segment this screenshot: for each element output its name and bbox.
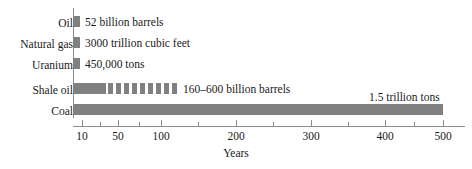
x-tick-50 (118, 120, 119, 126)
value-label-uranium: 450,000 tons (85, 58, 144, 70)
value-label-coal: 1.5 trillion tons (369, 91, 440, 103)
category-label-coal: Coal (51, 105, 73, 117)
bar-uranium (73, 58, 80, 69)
bar-natural-gas (73, 37, 80, 48)
x-tick-minor-6 (414, 122, 415, 126)
x-tick-label-200: 200 (227, 130, 244, 142)
bar-coal (73, 104, 443, 115)
bar-shale-oil (73, 83, 106, 94)
value-label-oil: 52 billion barrels (85, 16, 164, 28)
category-label-uranium: Uranium (32, 59, 73, 71)
x-axis-line (73, 126, 465, 127)
x-tick-label-50: 50 (112, 130, 124, 142)
x-tick-minor-5 (348, 122, 349, 126)
value-label-natural-gas: 3000 trillion cubic feet (85, 37, 190, 49)
x-tick-10 (82, 120, 83, 126)
x-tick-minor-2 (139, 122, 140, 126)
x-tick-minor-4 (273, 122, 274, 126)
category-label-natural-gas: Natural gas (20, 38, 73, 50)
value-label-shale-oil: 160–600 billion barrels (183, 83, 290, 95)
x-tick-400 (385, 120, 386, 126)
x-tick-500 (443, 120, 444, 126)
x-tick-300 (311, 120, 312, 126)
x-tick-minor-3 (198, 122, 199, 126)
category-label-shale-oil: Shale oil (32, 84, 73, 96)
x-tick-label-400: 400 (376, 130, 393, 142)
x-tick-label-300: 300 (302, 130, 319, 142)
chart-container: Oil Natural gas Uranium Shale oil Coal 5… (0, 0, 472, 169)
x-tick-label-100: 100 (152, 130, 169, 142)
x-axis-title: Years (0, 147, 472, 159)
x-tick-label-500: 500 (434, 130, 451, 142)
x-tick-minor-1 (100, 122, 101, 126)
x-tick-200 (236, 120, 237, 126)
bar-shale-oil-range (108, 83, 178, 94)
category-label-oil: Oil (58, 17, 73, 29)
x-tick-label-10: 10 (76, 130, 88, 142)
x-tick-100 (161, 120, 162, 126)
plot-area: 52 billion barrels 3000 trillion cubic f… (73, 8, 465, 118)
bar-oil (73, 16, 80, 27)
